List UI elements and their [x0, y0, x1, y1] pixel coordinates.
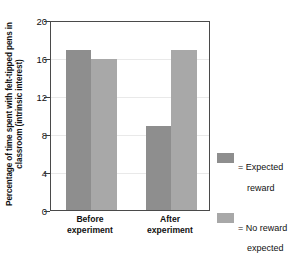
- x-category-before-line1: Before: [50, 214, 130, 225]
- legend-label-expected-reward-line1: = Expected: [238, 162, 283, 172]
- x-axis-category-labels: Before experiment After experiment: [50, 214, 210, 248]
- legend-label-no-reward-expected-line2: expected: [238, 243, 287, 253]
- y-axis-title: Percentage of time spent with felt-tippe…: [0, 14, 30, 214]
- y-tick-mark-0: [44, 211, 50, 212]
- legend-item-no-reward-expected: = No reward expected: [217, 212, 307, 257]
- legend-label-expected-reward-line2: reward: [238, 183, 283, 193]
- bar-before-no-reward-expected: [91, 59, 117, 210]
- legend-label-no-reward-expected: = No reward expected: [238, 212, 287, 257]
- legend-label-no-reward-expected-line1: = No reward: [238, 223, 287, 233]
- y-axis-title-container: Percentage of time spent with felt-tippe…: [0, 14, 30, 214]
- bar-after-no-reward-expected: [171, 50, 197, 210]
- x-category-before-line2: experiment: [50, 225, 130, 236]
- x-category-after: After experiment: [130, 214, 210, 235]
- x-category-after-line1: After: [130, 214, 210, 225]
- chart-legend: = Expected reward = No reward expected: [217, 152, 307, 257]
- legend-swatch-expected-reward: [217, 153, 234, 163]
- legend-label-expected-reward: = Expected reward: [238, 152, 283, 203]
- bar-after-expected-reward: [146, 126, 172, 210]
- bar-before-expected-reward: [66, 50, 92, 210]
- legend-item-expected-reward: = Expected reward: [217, 152, 307, 203]
- y-axis-tick-labels: 20 16 12 8 4 0: [28, 0, 47, 250]
- x-category-before: Before experiment: [50, 214, 130, 235]
- plot-area: [50, 21, 210, 211]
- legend-swatch-no-reward-expected: [217, 213, 234, 223]
- x-category-after-line2: experiment: [130, 225, 210, 236]
